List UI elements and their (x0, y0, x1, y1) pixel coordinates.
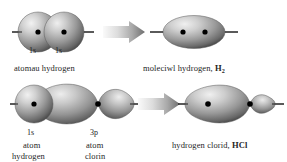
s-and-p-orbitals-svg (10, 80, 138, 128)
hydrogen-atom-pair-orbitals (12, 6, 94, 56)
hcl-small-lobe (250, 95, 275, 114)
hydrogen-molecule-orbital (150, 8, 238, 54)
orbital-label-1s-row2: 1s (27, 128, 34, 137)
caption-hydrogen-line2: hydrogen (12, 151, 45, 161)
caption-atom-right-line1: atom (86, 140, 103, 150)
arrow-icon (138, 93, 180, 115)
nucleus-dot (31, 101, 36, 106)
hcl-orbital-svg (178, 82, 284, 126)
orbital-bonding-diagram: 1s 1s atomau hydrogen (0, 0, 287, 162)
formula-symbol: H (215, 63, 222, 73)
hydrogen-chloride-molecule-orbital (178, 82, 284, 126)
hydrogen-chlorine-atom-orbitals (10, 80, 138, 128)
hcl-large-lobe (185, 85, 250, 123)
reaction-arrow-row1 (103, 21, 145, 43)
formula-hcl: HCl (232, 140, 247, 150)
caption-moleciwl-hydrogen: moleciwl hydrogen, H2 (143, 63, 225, 74)
reaction-arrow-row2 (138, 93, 180, 115)
formula-h2: H2 (215, 63, 225, 73)
arrow-icon (103, 21, 145, 43)
two-s-orbitals-svg (12, 6, 94, 56)
caption-atom-line1: atom (23, 140, 40, 150)
orbital-label-3p-row2: 3p (90, 128, 98, 137)
caption-atomau-hydrogen: atomau hydrogen (14, 63, 75, 73)
nucleus-dot (61, 29, 66, 34)
nucleus-dot (180, 29, 185, 34)
caption-hydrogen-clorid: hydrogen clorid, HCl (172, 140, 247, 150)
nucleus-dot (95, 101, 101, 107)
molecular-orbital-svg (150, 8, 238, 54)
caption-text: moleciwl hydrogen, (143, 63, 215, 73)
caption-text: hydrogen clorid, (172, 140, 232, 150)
formula-subscript: 2 (222, 68, 225, 74)
nucleus-dot (202, 29, 207, 34)
caption-clorin-line2: clorin (85, 151, 105, 161)
nucleus-dot (205, 101, 211, 107)
nucleus-dot (247, 101, 253, 107)
orbital-label-1s-a: 1s (29, 46, 36, 55)
orbital-label-1s-b: 1s (55, 46, 62, 55)
nucleus-dot (35, 29, 40, 34)
p-orbital-right-lobe (98, 89, 134, 118)
